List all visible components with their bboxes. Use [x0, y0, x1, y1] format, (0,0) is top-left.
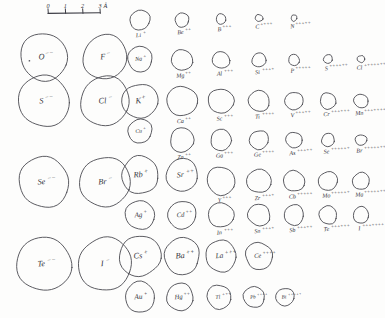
- ion-symbol-label: Cl: [356, 64, 362, 70]
- ion-cd-2+: Cd++: [168, 202, 196, 230]
- ion-charge-label: +++: [224, 227, 234, 233]
- ion-hg-2+: Hg++: [167, 283, 193, 311]
- ion-charge-label: ++++++: [329, 62, 348, 68]
- ion-charge-label: ++++: [262, 249, 276, 256]
- ion-p-5+: P+++++: [289, 54, 311, 73]
- ion-circle: [208, 203, 234, 227]
- ion-zn-2+: Zn++: [171, 128, 194, 161]
- ion-v-5+: V+++++: [285, 93, 311, 119]
- ion-circle: [283, 170, 304, 191]
- ion-cb-5+: Cb+++++: [283, 170, 312, 200]
- ion-symbol-label: In: [216, 229, 222, 235]
- ion-circle: [286, 132, 303, 147]
- ion-charge-label: −: [108, 174, 113, 181]
- ion-charge-label: ++++: [257, 291, 269, 297]
- ion-be-2+: Be++: [175, 13, 191, 35]
- ion-circle: [207, 167, 235, 196]
- ion-symbol-label: Si: [255, 69, 260, 75]
- ion-circle: [248, 90, 269, 111]
- ion-circle: [130, 10, 150, 30]
- ion-charge-label: +++++++: [364, 107, 385, 114]
- ion-symbol-label: Br: [98, 177, 108, 187]
- ion-se-6+: Se++++++: [321, 133, 349, 154]
- ion-circle: [357, 56, 365, 63]
- ion-charge-label: ++++: [262, 149, 275, 155]
- ion-rb-1+: Rb+: [122, 155, 158, 193]
- ion-circle: [255, 14, 263, 21]
- ion-circle: [285, 93, 304, 110]
- ion-sb-5+: Sb+++++: [284, 205, 312, 234]
- ion-charge-label: ++++: [262, 225, 275, 231]
- ion-symbol-label: As: [288, 150, 296, 157]
- ion-symbol-label: Te: [324, 226, 330, 232]
- ion-circle: [355, 135, 367, 145]
- ion-circle: [319, 206, 337, 224]
- ion-circle: [353, 206, 368, 223]
- ion-pb-4+: Pb++++: [243, 286, 268, 307]
- ion-symbol-label: Mg: [175, 72, 184, 79]
- ion-ba-2+: Ba++: [164, 237, 199, 274]
- ion-circle: [289, 54, 300, 65]
- ion-y-3+: Y+++: [207, 167, 235, 203]
- ion-ca-2+: Ca++: [167, 86, 198, 124]
- ion-charge-label: ++: [185, 152, 192, 157]
- ion-charge-label: +: [143, 248, 148, 255]
- ion-center-dot: [29, 60, 31, 62]
- ion-symbol-label: Sb: [289, 227, 295, 233]
- ion-symbol-label: Ba: [175, 251, 185, 261]
- ion-tl-3+: Tl+++: [207, 285, 231, 309]
- ion-i-7+: I+++++++: [353, 206, 384, 231]
- ion-charge-label: ++: [185, 116, 192, 121]
- ion-charge-label: +++++: [295, 64, 311, 70]
- ion-charge-label: ++: [185, 27, 192, 32]
- ion-charge-label: ++++++: [331, 189, 350, 195]
- ion-charge-label: +: [143, 30, 146, 35]
- ion-zr-4+: Zr++++: [247, 169, 275, 201]
- ion-charge-label: −−: [47, 256, 56, 264]
- ion-ga-3+: Ga+++: [211, 129, 233, 159]
- ion-circle: [171, 50, 192, 71]
- ion-symbol-label: Sn: [254, 228, 260, 234]
- ion-ce-4+: Ce++++: [246, 242, 277, 269]
- ion-circle: [249, 131, 268, 150]
- ion-circle: [208, 89, 234, 113]
- ion-charge-label: +++: [222, 194, 232, 200]
- ion-symbol-label: S: [325, 65, 328, 71]
- ion-symbol-label: Hg: [173, 293, 183, 301]
- ion-circle: [320, 93, 335, 110]
- ion-charge-label: ++++++: [331, 223, 350, 229]
- ion-ti-4+: Ti++++: [248, 90, 275, 119]
- ion-symbol-label: Cs: [133, 251, 142, 261]
- ion-symbol-label: Cl: [98, 96, 107, 106]
- ion-symbol-label: Ag: [133, 211, 143, 220]
- ion-charge-label: +++: [224, 249, 236, 256]
- ion-c-4+: C++++: [255, 14, 273, 29]
- ion-charge-label: ++++: [262, 111, 275, 117]
- ion-symbol-label: Cu: [135, 127, 142, 133]
- ion-f-1-: F−: [83, 34, 127, 78]
- ion-au-1+: Au+: [126, 281, 155, 312]
- ion-br-7+: Br+++++++: [355, 135, 385, 154]
- ion-circle: [252, 53, 266, 67]
- ion-circle-layer: O−−F−Li+Be++B+++C++++N+++++S−−Cl−Na+Mg++…: [0, 0, 385, 318]
- ion-k-1+: K+: [122, 85, 158, 119]
- ion-circle: [352, 172, 369, 189]
- ion-charge-label: +++++: [288, 291, 302, 297]
- ion-charge-label: +++: [224, 68, 234, 74]
- ion-charge-label: ++++: [262, 192, 275, 198]
- ion-circle: [247, 204, 269, 226]
- ion-symbol-label: Sc: [216, 115, 222, 121]
- ion-s-2-: S−−: [18, 75, 69, 126]
- ion-charge-label: +: [141, 93, 146, 100]
- ion-symbol-label: S: [39, 96, 44, 105]
- ion-ma-7+: Ma+++++++: [352, 172, 385, 198]
- ion-symbol-label: Au: [133, 293, 143, 302]
- ionic-radii-figure: 0123Å O−−F−Li+Be++B+++C++++N+++++S−−Cl−N…: [0, 0, 385, 318]
- ion-si-4+: Si++++: [252, 53, 275, 75]
- ion-te-6+: Te++++++: [319, 206, 350, 233]
- ion-cu-1+: Cu+: [128, 119, 152, 143]
- ion-charge-label: −−: [44, 93, 53, 101]
- ion-ge-4+: Ge++++: [249, 131, 274, 158]
- ion-circle: [323, 55, 332, 64]
- ion-charge-label: ++: [183, 290, 190, 296]
